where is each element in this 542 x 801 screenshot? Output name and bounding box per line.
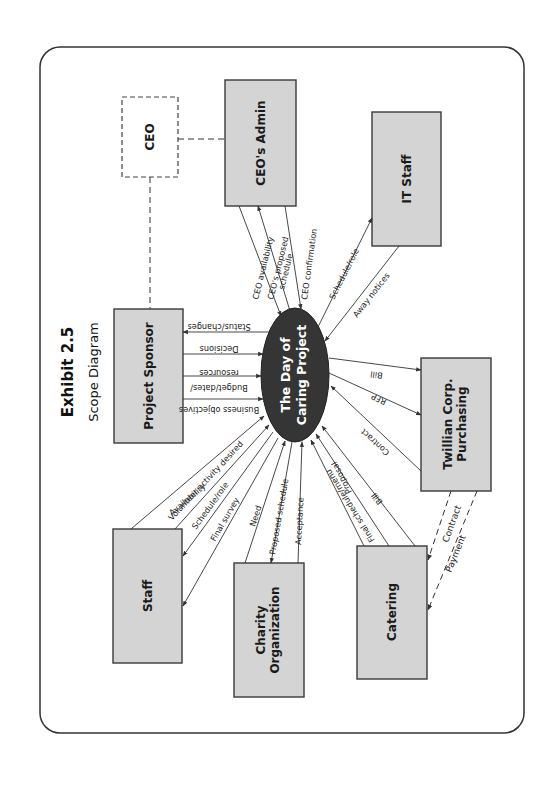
entity-it-staff: IT Staff	[372, 112, 441, 246]
flow-decisions: Decisions	[199, 344, 238, 354]
entity-project-sponsor: Project Sponsor	[114, 309, 183, 443]
entity-twillian-purchasing: Twillian Corp. Purchasing	[421, 358, 491, 491]
staff-label: Staff	[141, 580, 155, 612]
scope-diagram: Exhibit 2.5 Scope Diagram CEO CEO's Admi…	[0, 0, 542, 801]
ceo-label: CEO	[143, 123, 157, 150]
ceo-admin-label: CEO's Admin	[254, 100, 268, 185]
entity-ceo: CEO	[122, 97, 178, 177]
center-label-line2: Caring Project	[294, 325, 309, 425]
catering-label: Catering	[385, 583, 399, 641]
flow-business-objectives: Business objectives	[179, 405, 259, 415]
entity-charity-organization: Charity Organization	[234, 563, 304, 697]
project-sponsor-label: Project Sponsor	[142, 322, 156, 430]
it-staff-label: IT Staff	[400, 154, 414, 203]
flow-budget-line2: resources	[199, 368, 239, 378]
entity-catering: Catering	[357, 546, 427, 679]
exhibit-title: Exhibit 2.5	[59, 327, 77, 418]
flow-budget-line1: Budget/dates/	[190, 383, 248, 393]
twillian-label-line2: Purchasing	[455, 386, 469, 461]
center-label-line1: The Day of	[278, 337, 293, 413]
charity-label-line2: Organization	[268, 586, 282, 673]
exhibit-subtitle: Scope Diagram	[86, 322, 101, 422]
flow-status-changes: Status/changes	[187, 322, 250, 332]
entity-ceo-admin: CEO's Admin	[225, 80, 296, 206]
center-project: The Day of Caring Project	[261, 308, 329, 442]
twillian-label-line1: Twillian Corp.	[441, 378, 455, 469]
flow-twillian-bill: Bill	[370, 369, 384, 381]
charity-label-line1: Charity	[254, 605, 268, 654]
entity-staff: Staff	[113, 529, 182, 663]
